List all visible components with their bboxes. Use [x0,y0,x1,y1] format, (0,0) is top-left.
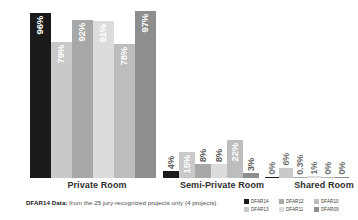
bar-value-label: 91% [99,24,109,42]
bar-rect: 96% [30,13,51,178]
category-label-private-room: Private Room [28,180,166,190]
bar-dfar13[interactable]: 15% [179,6,195,178]
bar-value-label: 96% [36,16,46,34]
bar-value-label: 0% [337,162,346,175]
bar-rect: 8% [211,164,227,178]
bar-rect: 0% [335,177,349,178]
bar-rect: 22% [227,140,243,178]
legend-item-dfar14[interactable]: DFAR14 [244,197,278,205]
legend-swatch-icon [279,199,284,204]
bar-dfar12[interactable]: 8% [195,6,211,178]
bar-dfar11[interactable]: 1% [307,6,321,178]
bar-rect: 4% [163,171,179,178]
bar-groups: 96%79%92%91%78%97%4%15%8%8%22%3%0%6%0.3%… [0,6,350,178]
legend-label: DFAR10 [321,199,339,204]
bar-rect: 1% [307,176,321,178]
legend-label: DFAR11 [286,207,303,212]
legend-item-dfar12[interactable]: DFAR12 [279,197,313,205]
bar-rect: 97% [135,11,156,178]
bar-rect: 91% [93,21,114,178]
bar-group-private-room: 96%79%92%91%78%97% [28,6,158,178]
bar-rect: 15% [179,152,195,178]
bar-value-label: 0% [323,162,332,175]
bar-value-label: 15% [182,155,192,173]
plot-area: 96%79%92%91%78%97%4%15%8%8%22%3%0%6%0.3%… [0,6,350,178]
legend-label: DFAR14 [251,199,269,204]
bar-dfar11[interactable]: 8% [211,6,227,178]
bar-dfar13[interactable]: 6% [279,6,293,178]
legend-label: DFAR13 [251,207,269,212]
chart-footnote: DFAR14 Data: from the 25 jury-recognized… [26,199,216,206]
legend-swatch-icon [279,207,284,212]
legend-item-dfar10[interactable]: DFAR10 [314,197,348,205]
bar-value-label: 1% [309,162,318,175]
bar-dfar14[interactable]: 0% [265,6,279,178]
legend-item-dfar09[interactable]: DFAR09 [314,205,348,213]
bar-dfar10[interactable]: 0% [321,6,335,178]
bar-group-shared-room: 0%6%0.3%1%0%0% [264,6,350,178]
bar-value-label: 0.3% [295,155,304,175]
bar-dfar10[interactable]: 78% [114,6,135,178]
bar-rect: 78% [114,44,135,178]
bar-value-label: 0% [267,162,276,175]
bar-value-label: 22% [230,143,240,161]
legend-swatch-icon [244,207,249,212]
bar-dfar14[interactable]: 4% [163,6,179,178]
chart-legend: DFAR14DFAR12DFAR10DFAR13DFAR11DFAR09 [244,197,348,213]
bar-value-label: 8% [198,149,208,162]
bar-rect: 6% [279,168,293,178]
legend-label: DFAR09 [321,207,339,212]
bar-value-label: 78% [120,47,130,65]
bar-dfar12[interactable]: 0.3% [293,6,307,178]
bar-rect: 3% [243,173,259,178]
bar-dfar09[interactable]: 3% [243,6,259,178]
legend-item-dfar13[interactable]: DFAR13 [244,205,278,213]
bar-dfar09[interactable]: 0% [335,6,349,178]
bar-rect: 0% [321,177,335,178]
category-label-shared-room: Shared Room [278,180,358,190]
bar-value-label: 97% [141,14,151,32]
legend-item-dfar11[interactable]: DFAR11 [279,205,313,213]
category-axis: Private Room Semi-Private Room Shared Ro… [0,180,350,192]
footnote-emphasis: DFAR14 Data: [26,199,68,206]
bar-dfar11[interactable]: 91% [93,6,114,178]
bar-dfar12[interactable]: 92% [72,6,93,178]
bar-dfar10[interactable]: 22% [227,6,243,178]
category-label-semi-private-room: Semi-Private Room [170,180,274,190]
bar-rect: 92% [72,20,93,178]
footnote-text: from the 25 jury-recognized projects onl… [68,199,217,206]
legend-label: DFAR12 [286,199,304,204]
bar-value-label: 92% [78,23,88,41]
legend-swatch-icon [314,207,319,212]
bar-rect: 0% [265,177,279,178]
bar-dfar09[interactable]: 97% [135,6,156,178]
bar-value-label: 79% [57,45,67,63]
bar-dfar14[interactable]: 96% [30,6,51,178]
bar-value-label: 4% [166,156,176,169]
bar-rect: 0.3% [293,177,307,178]
legend-swatch-icon [244,199,249,204]
bar-dfar13[interactable]: 79% [51,6,72,178]
bar-rect: 8% [195,164,211,178]
legend-swatch-icon [314,199,319,204]
bar-rect: 79% [51,42,72,178]
bar-value-label: 8% [214,149,224,162]
bar-group-semi-private-room: 4%15%8%8%22%3% [162,6,260,178]
bar-value-label: 6% [281,153,290,166]
bar-value-label: 3% [246,158,256,171]
